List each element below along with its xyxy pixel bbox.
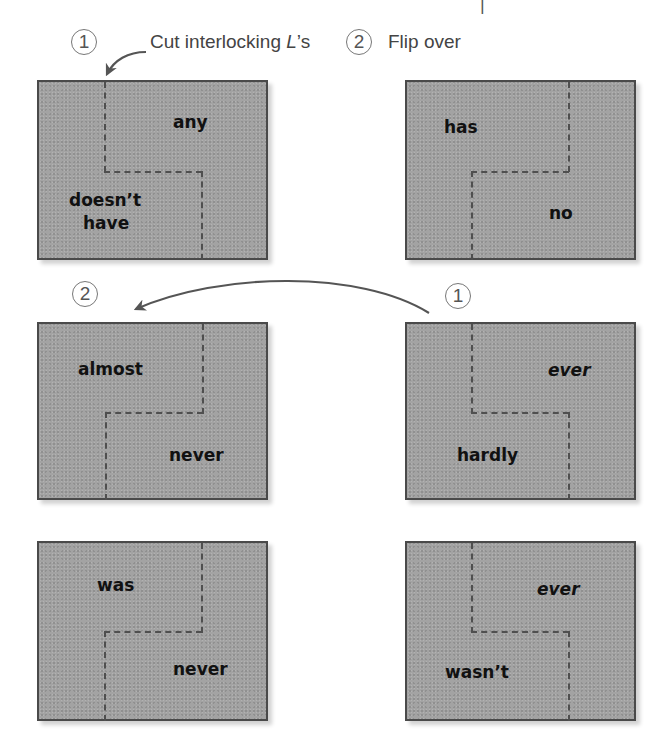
cut-line [201,543,203,633]
cut-line [105,412,107,500]
word-label: never [169,444,224,467]
word-label: doesn’t [69,189,141,212]
word-label: any [173,111,208,134]
word-label: almost [78,358,143,381]
cut-line [471,324,473,414]
cut-line [471,171,473,260]
word-label: wasn’t [445,661,509,684]
cut-line [201,171,203,260]
card-5: was never [37,541,268,721]
cut-line [471,412,569,414]
word-label: have [83,212,129,235]
card-2: has no [405,80,636,260]
word-label: ever [537,578,580,601]
cut-arrow-icon [107,52,146,74]
cut-line [471,631,569,633]
interlocking-ls-diagram: | 1 Cut interlocking L’s 2 Flip over 2 1… [0,0,666,744]
cut-line [104,171,202,173]
cut-line [471,543,473,633]
move-arrow-icon [136,281,429,313]
word-label: hardly [457,444,518,467]
card-6: ever wasn’t [405,541,636,721]
cut-line [105,412,203,414]
cut-line [471,171,569,173]
card-3: almost never [37,322,268,500]
cut-line [104,82,106,172]
card-4: ever hardly [405,322,636,500]
word-label: has [444,116,478,139]
cut-line [568,82,570,172]
word-label: ever [548,359,591,382]
cut-line [202,324,204,414]
cut-line [568,631,570,721]
cut-line [104,631,202,633]
card-1: any doesn’t have [37,80,268,260]
cut-line [568,412,570,500]
word-label: no [549,202,573,225]
word-label: never [173,658,228,681]
word-label: was [97,574,134,597]
cut-line [104,631,106,721]
